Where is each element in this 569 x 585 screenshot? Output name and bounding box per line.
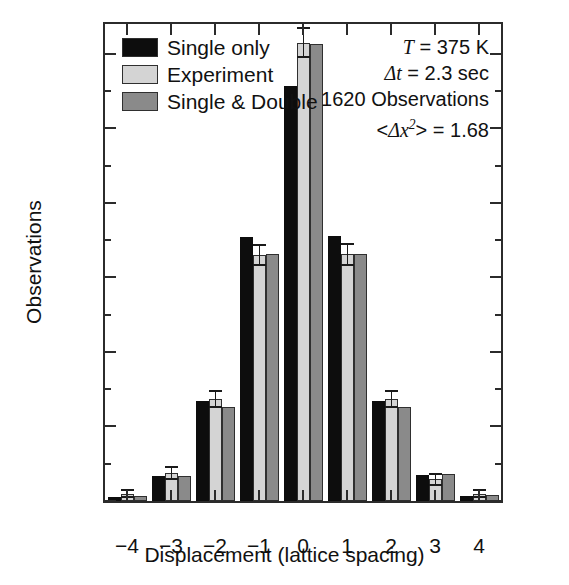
bar (385, 399, 398, 501)
legend-item: Single & Double (122, 88, 318, 115)
error-bar-cap-upper (165, 466, 178, 468)
x-tick--4-top (126, 24, 128, 35)
y-tick-100-right (490, 425, 501, 427)
x-tick-2 (390, 490, 392, 501)
y-tick-250-right (495, 314, 501, 316)
error-bar-cap-upper (253, 244, 266, 246)
msd-close: > = 1.68 (416, 119, 489, 141)
x-axis-title: Displacement (lattice spacing) (0, 543, 569, 567)
msd-exponent: 2 (409, 117, 416, 132)
legend: Single onlyExperimentSingle & Double (122, 34, 318, 115)
y-tick-400 (105, 202, 116, 204)
plot-area: Single onlyExperimentSingle & Double T =… (103, 22, 503, 503)
legend-label: Experiment (167, 64, 273, 85)
error-bar (259, 245, 260, 266)
x-tick-3 (434, 490, 436, 501)
y-tick-400-right (490, 202, 501, 204)
temperature-value: = 375 K (414, 36, 489, 58)
bar (341, 254, 354, 501)
y-tick-250 (105, 314, 111, 316)
y-tick-300 (105, 276, 116, 278)
bar (460, 496, 473, 501)
y-tick-550-right (495, 90, 501, 92)
x-tick-2-top (390, 24, 392, 35)
bar (284, 86, 297, 501)
y-tick-450 (105, 165, 111, 167)
y-tick-100 (105, 425, 116, 427)
y-tick-550 (105, 90, 111, 92)
error-bar-cap-upper (209, 390, 222, 392)
bar (196, 401, 209, 501)
y-tick-150 (105, 388, 111, 390)
msd-open: < (376, 119, 388, 141)
legend-item: Single only (122, 34, 318, 61)
y-tick-450-right (495, 165, 501, 167)
x-tick-0 (302, 490, 304, 501)
y-tick-300-right (490, 276, 501, 278)
annotations: T = 375 K Δt = 2.3 sec 1620 Observations… (321, 34, 489, 143)
error-bar-cap-upper (429, 473, 442, 475)
bar (398, 407, 411, 501)
y-tick-350-right (495, 239, 501, 241)
bar (222, 407, 235, 501)
x-tick--3-top (170, 24, 172, 35)
error-bar-cap-lower (341, 264, 354, 266)
y-tick-0-right (490, 500, 501, 502)
legend-item: Experiment (122, 61, 318, 88)
bar (209, 399, 222, 501)
legend-swatch (122, 92, 158, 111)
figure: Observations Single onlyExperimentSingle… (0, 0, 569, 585)
x-tick-4-top (478, 24, 480, 35)
y-tick-500 (105, 127, 116, 129)
y-tick-500-right (490, 127, 501, 129)
y-tick-50 (105, 463, 111, 465)
annotation-observations: 1620 Observations (321, 86, 489, 112)
msd-variable: x (400, 119, 409, 141)
error-bar (215, 391, 216, 407)
x-tick-3-top (434, 24, 436, 35)
x-tick--2 (214, 490, 216, 501)
x-tick--1-top (258, 24, 260, 35)
error-bar (347, 244, 348, 265)
bar (253, 255, 266, 501)
x-tick-1 (346, 490, 348, 501)
annotation-time-step: Δt = 2.3 sec (321, 60, 489, 86)
bar (442, 474, 455, 501)
x-tick-0-top (302, 24, 304, 35)
bar (240, 237, 253, 501)
x-tick--4 (126, 490, 128, 501)
bar (328, 236, 341, 501)
msd-delta: Δ (388, 119, 400, 141)
y-tick-50-right (495, 463, 501, 465)
annotation-temperature: T = 375 K (321, 34, 489, 60)
error-bar (391, 391, 392, 407)
y-tick-350 (105, 239, 111, 241)
temperature-symbol: T (403, 36, 414, 58)
x-tick--3 (170, 490, 172, 501)
y-tick-600 (105, 53, 116, 55)
bar (178, 476, 191, 501)
legend-label: Single only (167, 37, 270, 58)
bar (416, 475, 429, 501)
bar (152, 476, 165, 501)
y-tick-200-right (490, 351, 501, 353)
bar (372, 401, 385, 501)
legend-swatch (122, 38, 158, 57)
time-value: = 2.3 sec (402, 62, 489, 84)
error-bar-cap-lower (385, 406, 398, 408)
error-bar-cap-upper (341, 243, 354, 245)
x-tick-1-top (346, 24, 348, 35)
y-tick-150-right (495, 388, 501, 390)
bar (354, 254, 367, 501)
error-bar-cap-lower (253, 264, 266, 266)
annotation-mean-square: <Δx2> = 1.68 (321, 112, 489, 143)
y-tick-600-right (490, 53, 501, 55)
y-tick-200 (105, 351, 116, 353)
bar (266, 254, 279, 501)
error-bar-cap-lower (429, 484, 442, 486)
error-bar-cap-lower (165, 478, 178, 480)
x-tick-4 (478, 490, 480, 501)
x-tick--1 (258, 490, 260, 501)
error-bar-cap-lower (209, 406, 222, 408)
bar (134, 496, 147, 501)
